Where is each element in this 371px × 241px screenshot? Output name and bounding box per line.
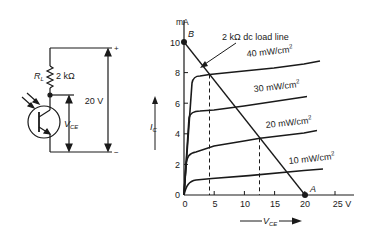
arrow-down-icon xyxy=(66,144,72,151)
circuit-labels: RL 2 kΩ 20 V + − VCE xyxy=(34,44,119,157)
arrow-up-icon xyxy=(66,96,72,103)
y-tick-label: 6 xyxy=(175,99,180,109)
y-unit-label: mA xyxy=(176,17,189,27)
vce-label: VCE xyxy=(64,119,79,130)
annotation-pointer xyxy=(205,43,236,64)
vce-axis-label: VCE xyxy=(263,216,278,227)
curve-label-10: 10 mW/cm2 xyxy=(288,150,336,166)
y-tick-label: 4 xyxy=(175,129,180,139)
arrow-up-icon xyxy=(152,96,158,104)
resistor-symbol xyxy=(47,66,53,88)
minus-sign: − xyxy=(114,148,119,157)
x-tick-label: 15 xyxy=(270,199,280,209)
transistor-collector xyxy=(39,110,50,117)
y-tick-label: 2 xyxy=(175,160,180,170)
point-a-marker xyxy=(302,192,308,198)
x-tick-label: 20 xyxy=(300,199,310,209)
point-a-label: A xyxy=(309,184,316,194)
y-tick-labels: 0 2 4 6 8 10 xyxy=(170,38,180,201)
y-tick-label: 8 xyxy=(175,68,180,78)
characteristic-curves xyxy=(184,61,323,195)
plus-sign: + xyxy=(114,44,119,53)
point-b-label: B xyxy=(188,29,194,39)
resistor-label: RL xyxy=(34,71,44,82)
x-tick-labels: 0 5 10 15 20 25 V xyxy=(182,199,351,209)
arrow-up-icon xyxy=(105,49,111,56)
x-tick-label: 10 xyxy=(240,199,250,209)
ic-axis-label: IC xyxy=(150,122,158,133)
x-tick-label: 25 V xyxy=(333,199,352,209)
curve-30mw xyxy=(184,97,307,196)
arrow-right-icon xyxy=(292,218,302,225)
phototransistor-figure: RL 2 kΩ 20 V + − VCE 0 2 4 xyxy=(0,0,371,241)
chart: 0 2 4 6 8 10 mA 0 5 10 15 20 25 V xyxy=(150,17,354,227)
x-tick-label: 0 xyxy=(182,199,187,209)
curve-label-20: 20 mW/cm2 xyxy=(265,114,313,130)
curve-label-30: 30 mW/cm2 xyxy=(253,78,301,94)
curve-label-40: 40 mW/cm2 xyxy=(246,43,294,59)
emitter-arrow-icon xyxy=(44,129,50,134)
y-tick-label: 10 xyxy=(170,38,180,48)
point-b-marker xyxy=(181,39,187,45)
resistor-value: 2 kΩ xyxy=(56,71,75,81)
y-tick-label: 0 xyxy=(175,190,180,200)
load-line-label: 2 kΩ dc load line xyxy=(222,32,289,42)
supply-voltage-label: 20 V xyxy=(85,96,104,106)
x-tick-label: 5 xyxy=(212,199,217,209)
arrow-down-icon xyxy=(105,144,111,151)
